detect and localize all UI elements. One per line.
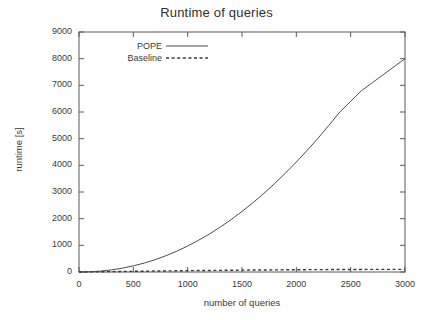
x-tick-label: 500: [111, 280, 155, 289]
y-tick-label: 8000: [32, 54, 72, 63]
y-axis-label: runtime [s]: [13, 115, 24, 185]
legend-label-pope: POPE: [96, 42, 162, 51]
x-tick-label: 1000: [166, 280, 210, 289]
x-tick-label: 1500: [220, 280, 264, 289]
y-tick-label: 1000: [32, 240, 72, 249]
chart-figure: Runtime of queries POPE Baseline 0100020…: [0, 0, 433, 320]
y-tick-label: 5000: [32, 134, 72, 143]
y-tick-label: 6000: [32, 107, 72, 116]
x-tick-label: 3000: [383, 280, 427, 289]
x-axis-ticks: [79, 32, 405, 272]
x-tick-label: 0: [57, 280, 101, 289]
plot-frame: [79, 32, 405, 272]
x-tick-label: 2000: [274, 280, 318, 289]
y-tick-label: 4000: [32, 160, 72, 169]
x-tick-label: 2500: [329, 280, 373, 289]
series-line-pope: [79, 59, 405, 272]
legend-label-baseline: Baseline: [96, 54, 162, 63]
y-tick-label: 2000: [32, 214, 72, 223]
y-axis-ticks: [79, 32, 405, 272]
y-tick-label: 7000: [32, 80, 72, 89]
y-tick-label: 9000: [32, 27, 72, 36]
y-tick-label: 3000: [32, 187, 72, 196]
y-tick-label: 0: [32, 267, 72, 276]
x-axis-label: number of queries: [79, 297, 405, 308]
